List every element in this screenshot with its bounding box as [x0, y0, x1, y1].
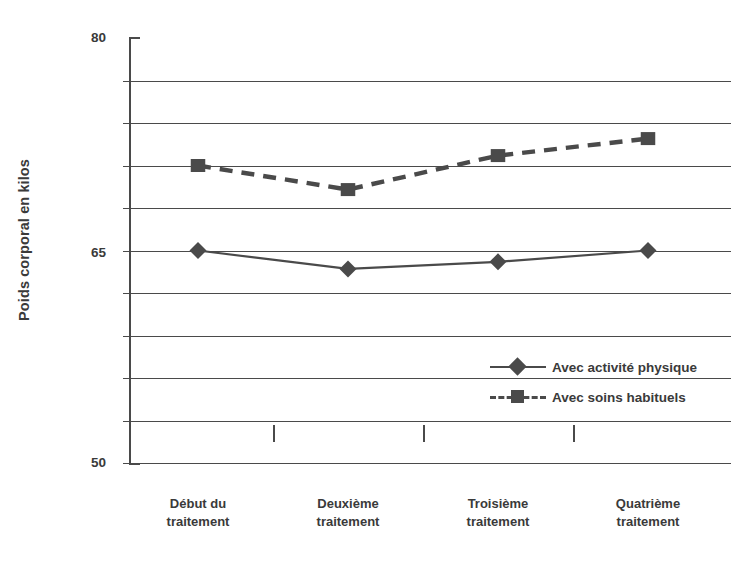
legend-swatch: [490, 388, 546, 406]
data-point-marker: [641, 132, 656, 145]
y-tick-label-80: 80: [62, 31, 106, 45]
x-axis-label-line: traitement: [268, 513, 428, 531]
data-point-marker: [490, 253, 507, 270]
data-point-marker: [340, 260, 357, 277]
x-axis-label-line: traitement: [418, 513, 578, 531]
y-axis-title-text: Poids corporal en kilos: [16, 159, 32, 321]
x-axis-label-4: Quatrièmetraitement: [568, 495, 728, 532]
x-axis-label-line: traitement: [568, 513, 728, 531]
legend: Avec activité physiqueAvec soins habitue…: [490, 352, 740, 412]
x-axis-label-line: Troisième: [418, 495, 578, 513]
y-axis-title: Poids corporal en kilos: [0, 0, 48, 480]
data-point-marker: [341, 183, 356, 196]
line-chart: Poids corporal en kilos 80 65 50 Début d…: [0, 0, 747, 562]
legend-item-1: Avec activité physique: [490, 352, 740, 382]
x-axis-label-line: Début du: [118, 495, 278, 513]
x-axis-label-2: Deuxièmetraitement: [268, 495, 428, 532]
series-line-2: [198, 139, 648, 190]
square-marker-icon: [511, 390, 524, 403]
data-point-marker: [191, 159, 206, 172]
x-axis-label-line: traitement: [118, 513, 278, 531]
x-axis-label-line: Deuxième: [268, 495, 428, 513]
y-tick-label-50: 50: [62, 456, 106, 470]
legend-label: Avec soins habituels: [546, 390, 686, 405]
gridline: [131, 463, 731, 464]
x-axis-label-line: Quatrième: [568, 495, 728, 513]
y-tick-label-65: 65: [62, 246, 106, 260]
legend-label: Avec activité physique: [546, 360, 697, 375]
legend-item-2: Avec soins habituels: [490, 382, 740, 412]
diamond-marker-icon: [508, 357, 526, 375]
data-point-marker: [190, 242, 207, 259]
series-line-1: [198, 251, 648, 269]
data-point-marker: [491, 149, 506, 162]
legend-swatch: [490, 358, 546, 376]
data-point-marker: [640, 242, 657, 259]
x-axis-label-1: Début dutraitement: [118, 495, 278, 532]
x-axis-label-3: Troisièmetraitement: [418, 495, 578, 532]
